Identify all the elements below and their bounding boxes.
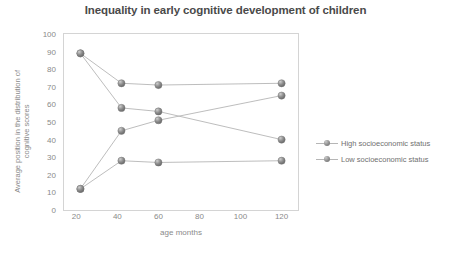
data-point-marker (278, 80, 285, 87)
y-axis-tick-label: 10 (47, 188, 56, 197)
y-axis-tick-label: 60 (47, 100, 56, 109)
series-line (80, 53, 281, 85)
x-axis-tick-label: 60 (154, 212, 163, 221)
chart-legend: High socioeconomic status Low socioecono… (316, 135, 449, 167)
y-axis-title-line1: Average position in the distribution of (13, 61, 22, 201)
y-axis-tick-label: 80 (47, 65, 56, 74)
data-point-marker (155, 81, 162, 88)
y-axis-tick-label: 20 (47, 170, 56, 179)
data-point-marker (77, 185, 84, 192)
data-point-marker (155, 117, 162, 124)
data-point-marker (155, 159, 162, 166)
y-axis-tick-label: 0 (52, 206, 56, 215)
legend-item-label: High socioeconomic status (341, 139, 430, 148)
x-axis-tick-labels: 20406080100120 (63, 212, 299, 226)
legend-item[interactable]: High socioeconomic status (316, 135, 449, 151)
chart-container: Inequality in early cognitive developmen… (0, 0, 451, 255)
series-line (80, 53, 281, 139)
plot-area (63, 33, 299, 211)
y-axis-tick-label: 40 (47, 135, 56, 144)
data-point-marker (118, 80, 125, 87)
y-axis-title: Average position in the distribution of … (13, 61, 32, 201)
x-axis-title: age months (63, 228, 299, 237)
plot-svg (64, 34, 298, 210)
data-point-marker (118, 157, 125, 164)
x-axis-tick-label: 100 (234, 212, 247, 221)
data-point-marker (77, 50, 84, 57)
legend-item[interactable]: Low socioeconomic status (316, 151, 449, 167)
legend-item-label: Low socioeconomic status (341, 155, 429, 164)
legend-marker-icon (316, 138, 338, 148)
data-point-marker (155, 108, 162, 115)
data-point-marker (118, 127, 125, 134)
legend-marker-icon (316, 154, 338, 164)
y-axis-title-line2: cognitive scores (22, 61, 31, 201)
data-point-marker (278, 92, 285, 99)
series-line (80, 96, 281, 189)
y-axis-tick-label: 50 (47, 118, 56, 127)
y-axis-tick-label: 100 (43, 30, 56, 39)
y-axis-tick-label: 70 (47, 82, 56, 91)
chart-title: Inequality in early cognitive developmen… (0, 4, 451, 16)
y-axis-tick-label: 90 (47, 47, 56, 56)
data-point-marker (278, 136, 285, 143)
x-axis-tick-label: 40 (113, 212, 122, 221)
data-point-marker (278, 157, 285, 164)
y-axis-tick-label: 30 (47, 153, 56, 162)
series-line (80, 161, 281, 189)
x-axis-tick-label: 80 (195, 212, 204, 221)
x-axis-tick-label: 20 (72, 212, 81, 221)
x-axis-tick-label: 120 (275, 212, 288, 221)
data-point-marker (118, 104, 125, 111)
